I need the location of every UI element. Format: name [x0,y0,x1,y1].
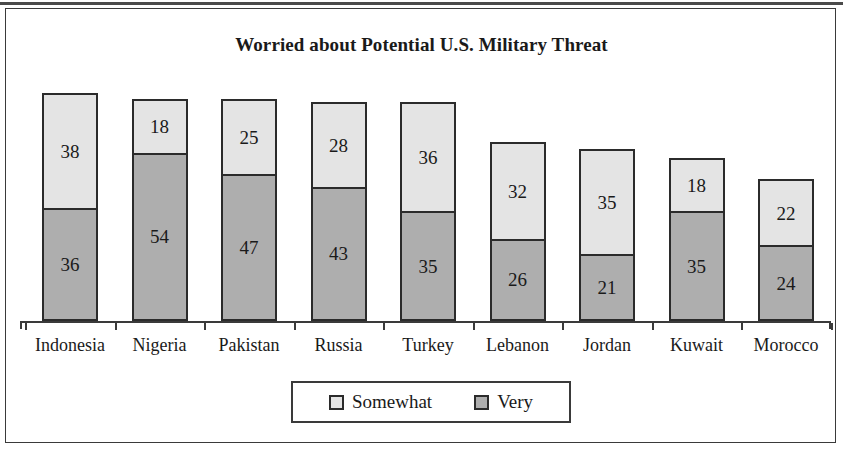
bar-nigeria: 1854 [132,99,188,321]
x-axis-tick [383,323,385,330]
bar-segment-somewhat: 32 [490,142,546,241]
bar-value-very: 36 [61,255,80,274]
legend-label-somewhat: Somewhat [352,391,432,413]
figure-frame: Worried about Potential U.S. Military Th… [5,8,836,443]
bar-value-somewhat: 22 [777,204,796,223]
x-axis-left-cap [20,321,22,329]
x-axis-tick [25,323,27,330]
bar-morocco: 2224 [758,179,814,321]
scan-artifact-line [0,2,843,5]
bar-value-somewhat: 18 [150,117,169,136]
bar-kuwait: 1835 [669,158,725,321]
legend-swatch-very-icon [474,395,489,410]
bar-value-very: 35 [419,257,438,276]
legend-label-very: Very [497,391,533,413]
bar-segment-very: 36 [42,208,98,321]
bar-segment-somewhat: 36 [400,102,456,213]
bar-value-very: 24 [777,274,796,293]
chart-legend: Somewhat Very [291,381,571,423]
bar-value-somewhat: 36 [419,148,438,167]
x-axis-tick [652,323,654,330]
x-axis-tick [115,323,117,330]
bar-segment-very: 43 [311,187,367,321]
bar-pakistan: 2547 [221,99,277,321]
bar-segment-somewhat: 22 [758,179,814,247]
bar-value-very: 43 [329,244,348,263]
bar-value-very: 21 [598,278,617,297]
bar-segment-somewhat: 38 [42,93,98,210]
bar-segment-somewhat: 25 [221,99,277,176]
bar-value-very: 35 [687,257,706,276]
bar-value-very: 26 [508,270,527,289]
x-axis-tick [473,323,475,330]
bar-value-somewhat: 18 [687,176,706,195]
scan-artifact-highlight [0,0,843,2]
x-axis-label-morocco: Morocco [716,335,843,356]
x-axis-tick [204,323,206,330]
bar-jordan: 3521 [579,149,635,321]
bar-turkey: 3635 [400,102,456,321]
legend-swatch-somewhat-icon [329,395,344,410]
bar-lebanon: 3226 [490,142,546,321]
bar-segment-somewhat: 18 [132,99,188,154]
x-axis-tick [562,323,564,330]
bar-value-somewhat: 32 [508,182,527,201]
bar-value-very: 47 [240,238,259,257]
bar-segment-very: 54 [132,153,188,321]
bar-value-very: 54 [150,227,169,246]
bar-segment-very: 47 [221,174,277,321]
bar-segment-somewhat: 28 [311,102,367,188]
bar-segment-very: 21 [579,254,635,321]
bar-segment-very: 35 [400,211,456,321]
bar-segment-very: 26 [490,239,546,321]
bar-russia: 2843 [311,102,367,321]
bar-value-somewhat: 38 [61,142,80,161]
bar-segment-somewhat: 35 [579,149,635,257]
legend-item-somewhat[interactable]: Somewhat [329,391,432,413]
plot-area: 3836Indonesia1854Nigeria2547Pakistan2843… [6,9,837,444]
x-axis-line [20,321,831,323]
x-axis-tick [831,323,833,330]
bar-value-somewhat: 25 [240,128,259,147]
bar-indonesia: 3836 [42,93,98,321]
x-axis-tick [294,323,296,330]
legend-item-very[interactable]: Very [474,391,533,413]
bar-value-somewhat: 35 [598,193,617,212]
bar-segment-very: 24 [758,245,814,321]
bar-segment-very: 35 [669,211,725,321]
x-axis-tick [741,323,743,330]
bar-value-somewhat: 28 [329,136,348,155]
bar-segment-somewhat: 18 [669,158,725,213]
